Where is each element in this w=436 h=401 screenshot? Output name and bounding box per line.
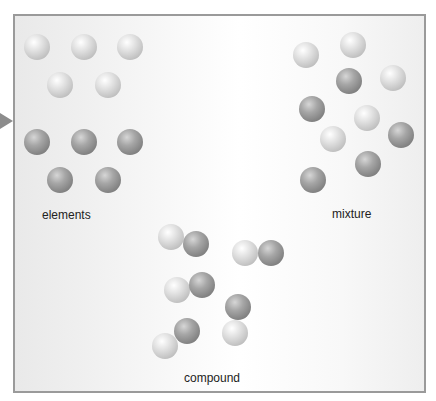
elements-dark-sphere [95,167,121,193]
elements-light-sphere [24,34,50,60]
compound-label: compound [184,371,240,385]
elements-label: elements [42,208,91,222]
compound-dark-sphere [189,272,215,298]
elements-dark-sphere [71,129,97,155]
compound-dark-sphere [258,240,284,266]
mixture-dark-sphere [336,68,362,94]
pointer-arrow-icon [0,113,13,129]
compound-light-sphere [158,224,184,250]
elements-dark-sphere [24,129,50,155]
compound-light-sphere [222,320,248,346]
diagram-frame [13,14,426,393]
mixture-light-sphere [380,65,406,91]
mixture-dark-sphere [299,96,325,122]
compound-light-sphere [232,240,258,266]
elements-light-sphere [47,72,73,98]
compound-dark-sphere [225,294,251,320]
elements-light-sphere [117,34,143,60]
mixture-light-sphere [320,126,346,152]
compound-dark-sphere [183,231,209,257]
compound-light-sphere [152,333,178,359]
compound-light-sphere [164,277,190,303]
mixture-dark-sphere [300,167,326,193]
mixture-dark-sphere [388,122,414,148]
elements-light-sphere [71,34,97,60]
mixture-label: mixture [332,207,371,221]
mixture-dark-sphere [355,151,381,177]
mixture-light-sphere [354,105,380,131]
elements-dark-sphere [47,167,73,193]
elements-light-sphere [95,72,121,98]
mixture-light-sphere [293,42,319,68]
mixture-light-sphere [340,32,366,58]
elements-dark-sphere [117,129,143,155]
compound-dark-sphere [174,318,200,344]
